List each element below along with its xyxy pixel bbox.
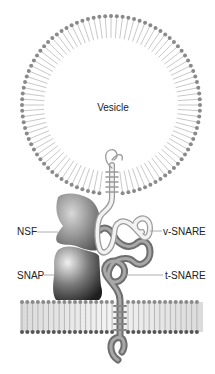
snap-protein — [53, 247, 102, 301]
snap-label: SNAP — [17, 270, 45, 281]
v-snare-label: v-SNARE — [163, 226, 206, 237]
t-snare-label: t-SNARE — [165, 270, 206, 281]
nsf-protein — [56, 194, 100, 251]
snare-diagram: Vesicle NSF SNAP v-SNARE t-SNARE — [0, 0, 215, 374]
vesicle-label: Vesicle — [97, 102, 129, 113]
nsf-label: NSF — [17, 226, 37, 237]
v-snare-protein — [97, 150, 150, 253]
plasma-membrane — [20, 300, 203, 334]
